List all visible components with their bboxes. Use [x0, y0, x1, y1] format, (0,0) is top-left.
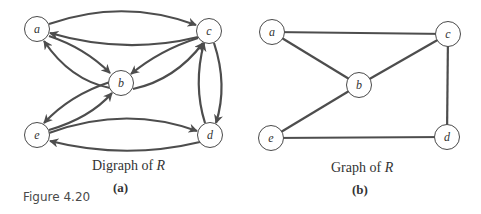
node-label: e	[34, 128, 40, 142]
node-label: b	[356, 78, 362, 92]
caption-digraph: Digraph of R	[92, 158, 165, 174]
node-a: a	[25, 17, 50, 42]
node-label: c	[445, 27, 451, 41]
node-c: c	[197, 19, 222, 44]
node-label: d	[207, 128, 214, 142]
edge-b-to-e	[44, 82, 110, 123]
sublabel-b: (b)	[352, 182, 368, 198]
node-a: a	[260, 20, 285, 45]
edge-a-to-b	[49, 36, 110, 73]
caption-variable: R	[385, 160, 394, 175]
node-e: e	[259, 126, 284, 151]
digraph-panel: a b c d e	[25, 11, 223, 151]
node-label: a	[269, 25, 275, 39]
figure-canvas: a b c d e a b	[0, 0, 481, 214]
node-c: c	[436, 22, 461, 47]
node-d: d	[198, 123, 223, 148]
edge-b-c	[359, 34, 448, 85]
node-b: b	[109, 71, 134, 96]
node-label: a	[34, 22, 40, 36]
edge-a-c	[272, 32, 448, 34]
edge-c-to-d	[214, 43, 222, 123]
edge-b-e	[271, 85, 359, 138]
edge-d-to-c	[199, 43, 205, 123]
edge-d-to-e	[50, 141, 200, 151]
node-d: d	[435, 125, 460, 150]
caption-graph: Graph of R	[331, 160, 393, 176]
node-label: c	[206, 24, 212, 38]
edge-a-to-c	[49, 11, 196, 25]
node-label: e	[268, 131, 274, 145]
edge-e-d	[271, 137, 447, 138]
node-label: d	[444, 130, 451, 144]
node-b: b	[347, 73, 372, 98]
edge-a-b	[272, 32, 359, 85]
sublabel-a: (a)	[113, 180, 128, 196]
edge-c-to-a	[50, 33, 198, 45]
edge-c-d	[447, 34, 448, 137]
figure-label: Figure 4.20	[23, 190, 90, 204]
node-label: b	[118, 76, 124, 90]
node-e: e	[25, 123, 50, 148]
caption-text: Graph of	[331, 160, 385, 175]
edge-e-to-d	[49, 118, 197, 133]
caption-text: Digraph of	[92, 158, 157, 173]
graph-panel: a b c d e	[259, 20, 461, 151]
caption-variable: R	[157, 158, 166, 173]
